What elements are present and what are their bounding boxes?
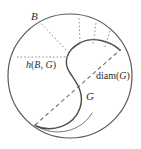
label-hausdorff-arg-g: G xyxy=(45,59,52,70)
radial-connector-2 xyxy=(79,18,80,43)
figure-container: B G h(B, G) diam(G) xyxy=(0,0,141,149)
set-g-curve xyxy=(36,40,120,129)
radial-connector-4 xyxy=(105,31,110,47)
label-diam-close-paren: ) xyxy=(127,70,130,81)
hausdorff-radial-connectors xyxy=(39,18,110,50)
label-set-g: G xyxy=(86,91,94,102)
label-diameter: diam(G) xyxy=(96,71,130,81)
label-hausdorff-distance: h(B, G) xyxy=(26,60,56,70)
radial-connector-1 xyxy=(39,21,66,50)
diameter-endpoint-end xyxy=(119,49,121,51)
radial-connector-3 xyxy=(93,23,96,45)
label-diam-prefix: diam xyxy=(96,70,116,81)
diameter-endpoint-start xyxy=(34,124,36,126)
label-ball-b: B xyxy=(31,11,38,22)
label-hausdorff-close-paren: ) xyxy=(53,59,56,70)
label-diam-arg-g: G xyxy=(119,70,126,81)
